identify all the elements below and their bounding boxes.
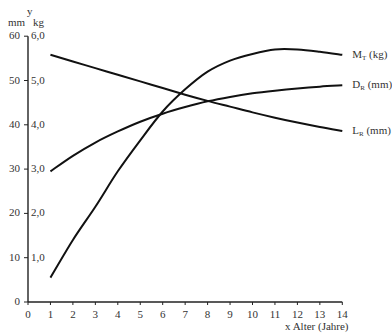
x-tick-label: 3 [93, 309, 99, 320]
y-tick-label-kg: 3,0 [31, 163, 45, 174]
x-tick-label: 10 [247, 309, 258, 320]
y-tick-label-mm: 50 [9, 75, 20, 86]
series-line-l [50, 55, 342, 131]
y-tick-label-kg: 4,0 [31, 119, 45, 130]
y-tick-label-kg: 5,0 [31, 75, 45, 86]
x-tick-label: 1 [48, 309, 54, 320]
series-label-m: MT (kg) [352, 49, 387, 62]
series-label-l: LR (mm) [352, 125, 391, 138]
series-label-d: DR (mm) [352, 79, 392, 92]
x-tick-label: 9 [227, 309, 233, 320]
y-tick-label-mm: 0 [15, 296, 21, 307]
y-tick-label-mm: 20 [9, 207, 20, 218]
x-tick-label: 11 [270, 309, 281, 320]
x-tick-label: 14 [337, 309, 348, 320]
x-tick-label: 13 [314, 309, 325, 320]
y-tick-label-kg: 6,0 [31, 30, 45, 41]
x-tick-label: 6 [160, 309, 166, 320]
data-lines [50, 49, 342, 278]
series-line-m [50, 49, 342, 278]
x-tick-label: 5 [138, 309, 144, 320]
y-tick-label-mm: 60 [9, 30, 20, 41]
x-axis-title: x Alter (Jahre) [285, 321, 349, 332]
y-tick-label-kg: 1,0 [31, 252, 45, 263]
y-tick-label-mm: 10 [9, 252, 20, 263]
x-tick-label: 2 [70, 309, 76, 320]
x-tick-label: 12 [292, 309, 303, 320]
y-tick-label-mm: 30 [9, 163, 20, 174]
x-tick-label: 7 [182, 309, 188, 320]
y-axis-letter: y [27, 6, 33, 17]
y-tick-label-mm: 40 [9, 119, 20, 130]
y-tick-label-kg: 2,0 [31, 207, 45, 218]
x-tick-label: 0 [25, 309, 31, 320]
y-axis-unit-mm: mm [8, 17, 25, 28]
x-tick-label: 4 [115, 309, 121, 320]
y-axis-unit-kg: kg [33, 17, 44, 28]
x-tick-label: 8 [205, 309, 211, 320]
axes [24, 36, 342, 305]
